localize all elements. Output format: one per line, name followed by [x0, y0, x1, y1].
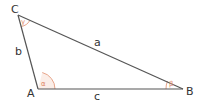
side-a-label: a: [94, 36, 101, 49]
triangle-svg: C A B a b c α β γ: [0, 0, 202, 104]
vertex-a-label: A: [27, 87, 35, 100]
angle-gamma-label: γ: [21, 18, 25, 26]
side-b-label: b: [15, 45, 22, 58]
vertex-b-label: B: [186, 85, 194, 98]
angle-beta-label: β: [169, 80, 173, 88]
triangle-diagram: C A B a b c α β γ: [0, 0, 202, 104]
angle-alpha-label: α: [41, 80, 46, 88]
vertex-c-label: C: [11, 3, 19, 16]
side-c-label: c: [94, 90, 100, 103]
